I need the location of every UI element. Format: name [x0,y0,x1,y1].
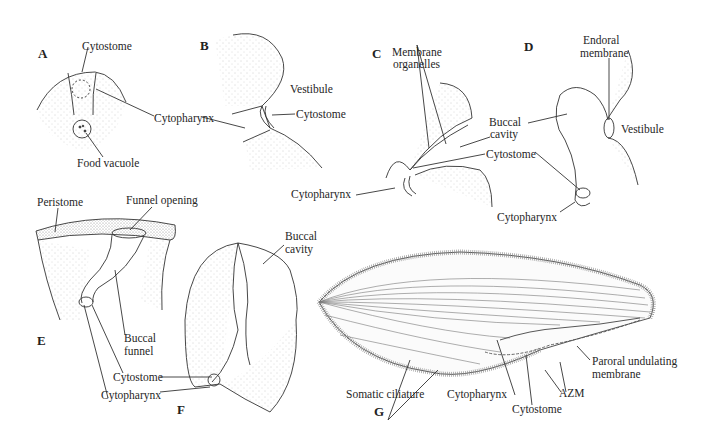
panel-e-letter: E [37,333,46,349]
label-d-cytopharynx: Cytopharynx [497,211,557,223]
label-c-membrane-organelles-1: Membrane [392,46,442,58]
label-g-paroral-undulating-1: Paroral undulating [592,355,677,367]
panel-b-letter: B [200,38,209,54]
label-g-somatic-ciliature: Somatic ciliature [346,388,424,400]
label-d-endoral-membrane-2: membrane [580,47,629,59]
label-g-paroral-undulating-2: membrane [592,368,641,380]
label-f-buccal-cavity-1: Buccal [285,230,317,242]
panel-f-letter: F [177,402,185,418]
panel-e-drawing [36,207,175,398]
label-e-buccal-funnel-2: funnel [124,345,153,357]
label-e-cytopharynx: Cytopharynx [101,389,161,401]
label-a-cytostome: Cytostome [82,40,132,52]
label-g-cytopharynx: Cytopharynx [447,388,507,400]
label-d-endoral-membrane-1: Endoral [583,34,619,46]
label-c-cytopharynx: Cytopharynx [291,188,351,200]
panel-d-letter: D [524,39,533,55]
panel-f-drawing [160,243,297,412]
panel-g-letter: G [374,404,384,420]
label-a-food-vacuole: Food vacuole [77,157,139,169]
label-c-membrane-organelles-2: organelles [393,58,440,70]
panel-b-drawing [202,34,322,170]
label-b-cytostome: Cytostome [296,108,346,120]
label-e-funnel-opening: Funnel opening [126,194,198,206]
label-c-buccal-cavity-2: cavity [490,128,518,140]
label-g-cytostome: Cytostome [512,403,562,415]
label-a-cytopharynx: Cytopharynx [154,112,214,124]
panel-a-letter: A [38,46,47,62]
panel-a-drawing [37,47,154,157]
label-c-cytostome: Cytostome [486,148,536,160]
label-e-peristome: Peristome [37,196,83,208]
label-e-cytostome: Cytostome [113,371,163,383]
label-f-buccal-cavity-2: cavity [285,243,313,255]
panel-c-letter: C [372,46,381,62]
label-d-vestibule: Vestibule [621,123,664,135]
label-g-azm: AZM [559,387,585,399]
label-e-buccal-funnel-1: Buccal [124,332,156,344]
label-b-vestibule: Vestibule [290,83,333,95]
label-c-buccal-cavity-1: Buccal [489,116,521,128]
